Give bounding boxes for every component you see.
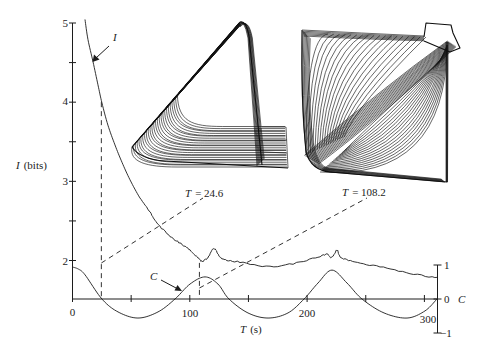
dashed-markers (101, 102, 367, 299)
y-axis-title: I(bits) (15, 159, 47, 172)
inset-label-t24-var: T (185, 187, 192, 199)
y-axis-unit: (bits) (24, 159, 48, 172)
right-tick-label-minus1: −1 (440, 327, 452, 339)
marker-t108-leader (199, 198, 367, 288)
x-axis (73, 295, 438, 302)
x-tick-label-0: 0 (70, 306, 76, 318)
x-tick-label-100: 100 (182, 307, 199, 319)
y-axis-var: I (15, 159, 21, 171)
x-tick-label-200: 200 (299, 307, 316, 319)
y-tick-label-2: 2 (63, 255, 69, 267)
control-curve (73, 267, 437, 318)
attractor-t108-trajectories (302, 30, 456, 182)
x-axis-unit: (s) (250, 323, 262, 336)
inset-label-t108-var: T (342, 186, 349, 198)
y-tick-label-4: 4 (63, 95, 69, 107)
y-tick-label-3: 3 (63, 175, 69, 187)
marker-t24-leader (101, 198, 203, 263)
inset-attractor-t24 (132, 22, 288, 168)
inset-label-t108-value: = 108.2 (352, 186, 386, 198)
right-axis-title: C (458, 293, 466, 305)
y-tick-label-5: 5 (63, 17, 69, 29)
inset-label-t24: T= 24.6 (185, 187, 224, 199)
inset-attractor-t108 (302, 23, 460, 182)
right-tick-label-0: 0 (444, 293, 450, 305)
arrow-I-shaft (96, 46, 109, 58)
figure: 5 4 3 2 I(bits) 0 100 200 300 T(s) 1 0 C… (0, 0, 484, 353)
inset-label-t24-value: = 24.6 (195, 187, 224, 199)
left-axis (69, 23, 76, 299)
x-tick-label-300: 300 (420, 313, 437, 325)
arrow-C-shaft (161, 280, 177, 289)
x-axis-title: T(s) (240, 323, 262, 336)
curve-label-I: I (112, 31, 118, 43)
inset-label-t108: T= 108.2 (342, 186, 386, 198)
attractor-t24-trajectories (132, 22, 288, 168)
curve-label-C: C (150, 270, 158, 282)
x-axis-var: T (240, 323, 247, 335)
right-tick-label-1: 1 (444, 259, 450, 271)
